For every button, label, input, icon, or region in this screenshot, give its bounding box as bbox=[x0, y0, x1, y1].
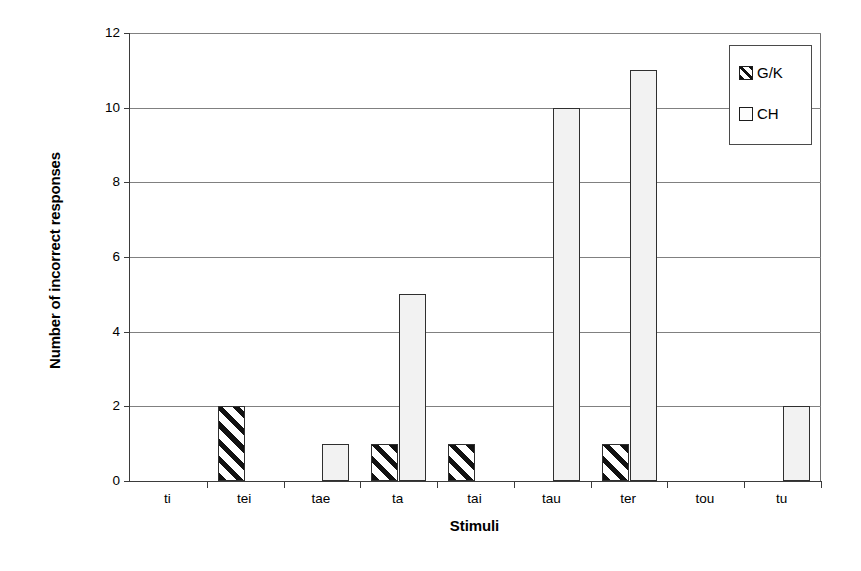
legend-item-CH: CH bbox=[739, 106, 779, 121]
x-axis-tick-label: ti bbox=[164, 492, 171, 506]
bar-ta-GK bbox=[371, 444, 398, 481]
y-axis-tick-mark bbox=[124, 108, 130, 109]
x-axis-tick-label: tau bbox=[542, 492, 561, 506]
x-axis-title: Stimuli bbox=[129, 517, 820, 534]
y-axis-tick-mark bbox=[124, 257, 130, 258]
x-axis-tick-label: tai bbox=[467, 492, 481, 506]
chart-legend: G/KCH bbox=[729, 45, 812, 145]
legend-label: CH bbox=[757, 106, 779, 121]
x-axis-tick-mark bbox=[360, 481, 361, 488]
bar-ter-CH bbox=[630, 70, 657, 481]
x-axis-tick-mark bbox=[744, 481, 745, 488]
gridline bbox=[130, 257, 821, 258]
plain-swatch-icon bbox=[739, 107, 753, 121]
bar-tae-CH bbox=[322, 444, 349, 481]
y-axis-tick-label: 10 bbox=[86, 101, 120, 115]
bar-tei-GK bbox=[218, 406, 245, 481]
x-axis-tick-mark bbox=[667, 481, 668, 488]
legend-item-GK: G/K bbox=[739, 65, 783, 80]
plot-area bbox=[129, 33, 821, 482]
y-axis-tick-label: 6 bbox=[86, 250, 120, 264]
x-axis-tick-mark bbox=[284, 481, 285, 488]
x-axis-tick-label: tu bbox=[776, 492, 787, 506]
y-axis-tick-label: 8 bbox=[86, 176, 120, 190]
bar-tu-CH bbox=[783, 406, 810, 481]
x-axis-tick-mark bbox=[437, 481, 438, 488]
hatched-swatch-icon bbox=[739, 66, 753, 80]
y-axis-tick-mark bbox=[124, 481, 130, 482]
x-axis-tick-label: ta bbox=[392, 492, 403, 506]
x-axis-tick-label: tou bbox=[695, 492, 714, 506]
x-axis-tick-mark bbox=[591, 481, 592, 488]
y-axis-tick-mark bbox=[124, 406, 130, 407]
y-axis-tick-mark bbox=[124, 33, 130, 34]
y-axis-tick-label: 0 bbox=[86, 474, 120, 488]
x-axis-tick-mark bbox=[514, 481, 515, 488]
legend-label: G/K bbox=[757, 65, 783, 80]
x-axis-tick-mark bbox=[821, 481, 822, 488]
x-axis-tick-label: ter bbox=[620, 492, 636, 506]
x-axis-tick-labels: titeitaetataitautertoutu bbox=[129, 492, 820, 514]
y-axis-tick-label: 12 bbox=[86, 26, 120, 40]
y-axis-tick-labels: 024681012 bbox=[86, 0, 120, 571]
gridline bbox=[130, 33, 821, 34]
y-axis-title: Number of incorrect responses bbox=[46, 111, 63, 411]
bar-ter-GK bbox=[602, 444, 629, 481]
gridline bbox=[130, 108, 821, 109]
x-axis-tick-mark bbox=[207, 481, 208, 488]
y-axis-tick-mark bbox=[124, 332, 130, 333]
x-axis-tick-label: tae bbox=[312, 492, 331, 506]
x-axis-tick-label: tei bbox=[237, 492, 251, 506]
y-axis-tick-label: 2 bbox=[86, 400, 120, 414]
bar-tau-CH bbox=[553, 108, 580, 481]
gridline bbox=[130, 182, 821, 183]
gridline bbox=[130, 332, 821, 333]
y-axis-tick-label: 4 bbox=[86, 325, 120, 339]
bar-tai-GK bbox=[448, 444, 475, 481]
y-axis-tick-mark bbox=[124, 182, 130, 183]
bar-ta-CH bbox=[399, 294, 426, 481]
bar-chart-figure: Number of incorrect responses 024681012 … bbox=[0, 0, 861, 571]
